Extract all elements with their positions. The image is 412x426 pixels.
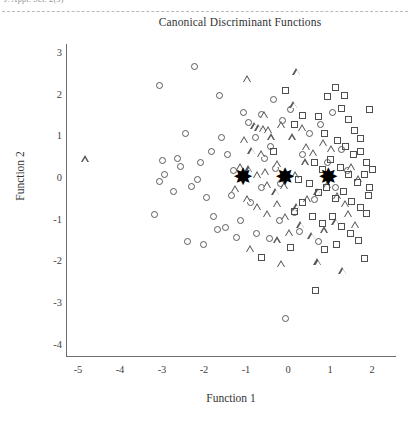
- data-point-circle: [306, 130, 313, 137]
- data-point-square: [312, 287, 319, 294]
- data-point-triangle: [277, 260, 285, 267]
- data-point-square: [291, 121, 298, 128]
- data-point-triangle: [301, 158, 309, 165]
- data-point-square: [319, 220, 326, 227]
- data-point-triangle: [244, 195, 252, 202]
- group-centroid-marker: ✸: [317, 166, 339, 188]
- data-point-square: [366, 106, 373, 113]
- data-point-circle: [329, 109, 336, 116]
- data-point-triangle: [241, 136, 249, 143]
- data-point-square: [340, 188, 347, 195]
- data-point-square: [347, 230, 354, 237]
- data-point-circle: [156, 178, 163, 185]
- data-point-triangle: [286, 229, 294, 236]
- data-point-circle: [214, 226, 221, 233]
- x-tick-label: -4: [105, 364, 135, 375]
- data-point-circle: [253, 230, 260, 237]
- data-point-circle: [299, 151, 306, 158]
- data-point-square: [299, 199, 306, 206]
- data-point-triangle: [265, 126, 273, 133]
- data-point-triangle: [339, 267, 347, 274]
- data-point-square: [342, 143, 349, 150]
- data-point-square: [287, 244, 294, 251]
- data-point-square: [345, 171, 352, 178]
- data-point-circle: [224, 151, 231, 158]
- data-point-triangle: [273, 236, 281, 243]
- data-point-circle: [156, 82, 163, 89]
- data-point-triangle: [310, 149, 318, 156]
- data-point-circle: [177, 163, 184, 170]
- data-point-square: [332, 84, 339, 91]
- data-point-triangle: [347, 163, 355, 170]
- data-point-circle: [203, 194, 210, 201]
- data-point-triangle: [290, 101, 298, 108]
- data-point-square: [291, 208, 298, 215]
- data-point-circle: [197, 159, 204, 166]
- group-centroid-marker: ✸: [274, 166, 296, 188]
- x-tick-label: -2: [189, 364, 219, 375]
- data-point-triangle: [328, 145, 336, 152]
- data-point-circle: [182, 130, 189, 137]
- plot-area: ✸✸✸: [66, 44, 396, 356]
- x-tick-label: -1: [231, 364, 261, 375]
- data-point-triangle: [319, 139, 327, 146]
- data-point-square: [321, 130, 328, 137]
- data-point-triangle: [297, 221, 305, 228]
- data-point-triangle: [277, 121, 285, 128]
- data-point-circle: [317, 121, 324, 128]
- data-point-circle: [233, 234, 240, 241]
- group-centroid-marker: ✸: [232, 166, 254, 188]
- data-point-triangle: [253, 171, 261, 178]
- data-point-circle: [151, 211, 158, 218]
- data-point-triangle: [260, 111, 268, 118]
- data-point-square: [363, 159, 370, 166]
- data-point-circle: [282, 315, 289, 322]
- data-point-square: [321, 246, 328, 253]
- data-point-square: [327, 156, 334, 163]
- data-point-square: [361, 171, 368, 178]
- data-point-square: [295, 176, 302, 183]
- data-point-square: [348, 198, 355, 205]
- data-point-circle: [216, 92, 223, 99]
- data-point-triangle: [248, 147, 256, 154]
- x-tick-label: 0: [273, 364, 303, 375]
- data-point-square: [345, 116, 352, 123]
- data-point-circle: [208, 148, 215, 155]
- data-point-square: [333, 241, 340, 248]
- data-point-circle: [218, 134, 225, 141]
- data-point-circle: [159, 157, 166, 164]
- data-point-square: [365, 192, 372, 199]
- data-point-square: [315, 113, 322, 120]
- data-point-circle: [210, 213, 217, 220]
- data-point-triangle: [344, 210, 352, 217]
- x-axis-title: Function 1: [66, 392, 396, 404]
- data-point-circle: [161, 171, 168, 178]
- data-point-triangle: [314, 258, 322, 265]
- canonical-discriminant-scatter-figure: Canonical Discriminant Functions 3210-1-…: [0, 0, 412, 426]
- data-point-square: [258, 254, 265, 261]
- data-point-triangle: [263, 210, 271, 217]
- data-point-circle: [228, 192, 235, 199]
- data-point-square: [338, 223, 345, 230]
- data-point-square: [363, 210, 370, 217]
- data-point-circle: [194, 176, 201, 183]
- data-point-triangle: [308, 232, 316, 239]
- data-point-triangle: [298, 124, 306, 131]
- x-tick-label: 2: [357, 364, 387, 375]
- data-point-triangle: [244, 75, 252, 82]
- data-point-square: [311, 159, 318, 166]
- data-point-circle: [270, 96, 277, 103]
- data-point-square: [369, 166, 376, 173]
- data-point-triangle: [352, 221, 360, 228]
- data-point-circle: [222, 224, 229, 231]
- data-point-circle: [191, 63, 198, 70]
- data-point-square: [332, 195, 339, 202]
- data-point-square: [270, 148, 277, 155]
- data-point-circle: [252, 134, 259, 141]
- data-point-square: [357, 135, 364, 142]
- data-point-triangle: [253, 203, 261, 210]
- x-tick-label: -5: [63, 364, 93, 375]
- data-point-triangle: [289, 133, 297, 140]
- data-point-triangle: [293, 68, 301, 75]
- y-axis-title: Function 2: [14, 106, 26, 246]
